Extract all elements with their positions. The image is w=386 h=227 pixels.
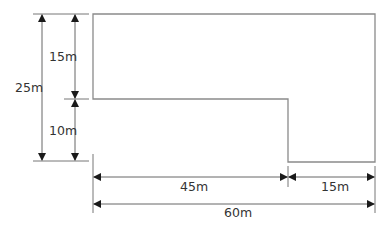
- label-right-width: 15m: [321, 181, 349, 194]
- label-total-height: 25m: [15, 82, 43, 95]
- label-upper-height: 15m: [49, 51, 77, 64]
- label-total-width: 60m: [224, 207, 252, 220]
- label-left-width: 45m: [180, 181, 208, 194]
- l-shaped-outline: [93, 14, 375, 162]
- label-lower-height: 10m: [49, 125, 77, 138]
